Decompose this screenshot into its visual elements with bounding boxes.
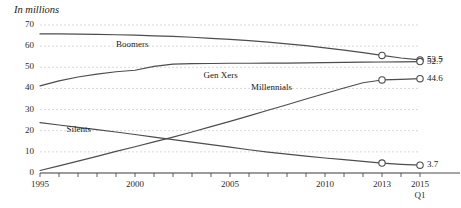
data-point-marker (379, 160, 385, 166)
data-point-markers (379, 52, 423, 168)
x-axis-tick-label: 2005 (207, 179, 253, 189)
series-line-boomers (40, 34, 420, 60)
x-axis-tick-sublabel: Q1 (397, 190, 443, 200)
series-label-millennials: Millennials (251, 82, 292, 92)
gridlines (40, 25, 420, 173)
data-point-marker (379, 52, 385, 58)
end-value-label-millennials: 44.6 (427, 73, 443, 83)
x-axis-tick-label: 2010 (302, 179, 348, 189)
data-point-marker (417, 58, 423, 64)
series-line-millennials (40, 79, 420, 171)
data-point-marker (379, 77, 385, 83)
y-axis-tick-label: 20 (8, 125, 34, 135)
x-axis-tick-label: 2015 (397, 179, 443, 189)
end-value-label-silents: 3.7 (427, 159, 438, 169)
y-axis-tick-label: 0 (8, 167, 34, 177)
y-axis-tick-label: 50 (8, 61, 34, 71)
x-axis-tick-label: 2000 (112, 179, 158, 189)
series-label-silents: Silents (67, 124, 92, 134)
x-axis-ticks (40, 173, 420, 177)
data-point-marker (417, 162, 423, 168)
y-axis-tick-label: 10 (8, 146, 34, 156)
y-axis-tick-label: 70 (8, 19, 34, 29)
chart-plot-area (0, 0, 461, 208)
y-axis-tick-label: 60 (8, 40, 34, 50)
series-label-gen-xers: Gen Xers (203, 70, 237, 80)
series-line-silents (40, 123, 420, 165)
x-axis-tick-label: 1995 (17, 179, 63, 189)
end-value-label-gen-xers: 52.7 (427, 56, 443, 66)
y-axis-tick-label: 40 (8, 82, 34, 92)
series-label-boomers: Boomers (116, 39, 149, 49)
y-axis-tick-label: 30 (8, 104, 34, 114)
data-point-marker (417, 76, 423, 82)
series-lines (40, 34, 420, 171)
chart-container: In millions 010203040506070 199520002005… (0, 0, 461, 208)
